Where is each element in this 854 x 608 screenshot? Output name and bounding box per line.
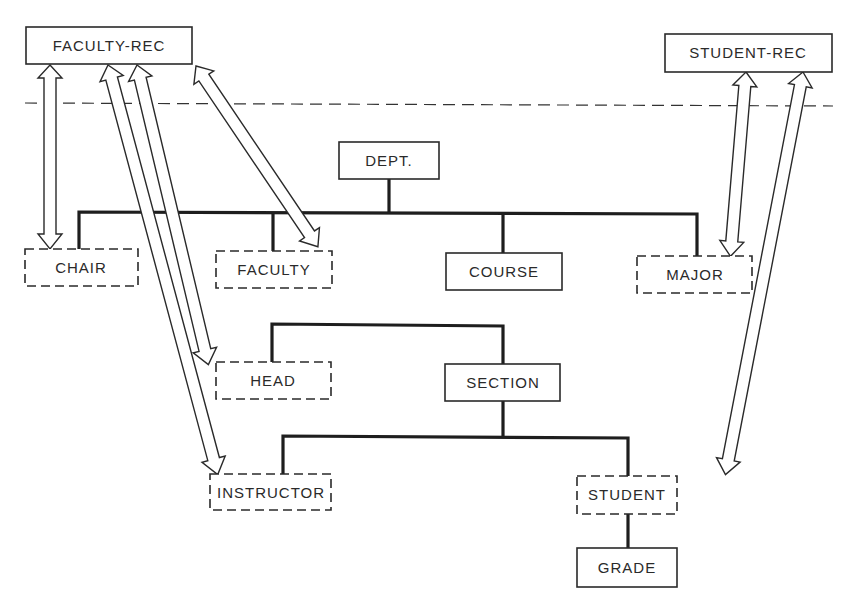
node-section[interactable]: SECTION [445,364,560,401]
arrow-student-rec-major [719,71,758,257]
node-student-rec[interactable]: STUDENT-REC [665,34,832,72]
node-label: MAJOR [666,266,724,283]
node-label: STUDENT [588,486,666,503]
node-label: STUDENT-REC [689,44,807,61]
node-label: FACULTY-REC [53,37,166,54]
node-dept[interactable]: DEPT. [339,142,439,179]
arrow-faculty-rec-chair [38,65,62,249]
node-head[interactable]: HEAD [216,362,331,399]
node-label: COURSE [469,263,539,280]
node-faculty-rec[interactable]: FACULTY-REC [26,27,192,64]
node-label: INSTRUCTOR [217,484,325,501]
node-major[interactable]: MAJOR [637,256,752,293]
node-course[interactable]: COURSE [446,253,562,290]
diagram-canvas: FACULTY-REC STUDENT-REC DEPT. CHAIR FACU… [0,0,854,608]
node-student[interactable]: STUDENT [577,476,677,514]
course-children-bar [272,324,503,364]
arrow-faculty-rec-faculty [186,59,328,253]
node-label: CHAIR [55,259,107,276]
node-faculty[interactable]: FACULTY [216,251,332,288]
node-label: SECTION [466,374,540,391]
section-children-bar [283,436,628,476]
node-label: GRADE [598,559,656,576]
node-chair[interactable]: CHAIR [25,249,138,286]
node-grade[interactable]: GRADE [577,548,677,587]
node-label: HEAD [250,372,296,389]
node-label: DEPT. [365,152,413,169]
node-label: FACULTY [237,261,310,278]
node-instructor[interactable]: INSTRUCTOR [210,474,331,510]
